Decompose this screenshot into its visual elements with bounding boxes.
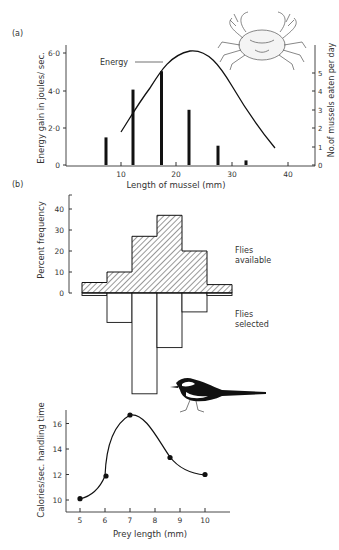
legend-available-line1: Flies: [235, 246, 253, 255]
svg-text:1: 1: [318, 144, 322, 152]
bar: [132, 293, 157, 394]
y-axis-left-label: Energy gain in joules/ sec.: [36, 52, 46, 164]
svg-text:0: 0: [55, 161, 60, 170]
bar: [105, 137, 108, 165]
svg-text:10: 10: [52, 496, 62, 505]
svg-text:10: 10: [54, 268, 64, 277]
figure: (a) 0 2·0 4·0 6·0 Energy gain in joules/…: [0, 0, 339, 550]
svg-text:5: 5: [78, 516, 83, 525]
svg-text:6·0: 6·0: [48, 49, 60, 58]
bar: [245, 160, 248, 165]
bar: [132, 90, 135, 165]
svg-text:5: 5: [318, 70, 322, 78]
bar: [182, 293, 207, 312]
chart-a: (a) 0 2·0 4·0 6·0 Energy gain in joules/…: [12, 12, 336, 190]
svg-text:30: 30: [54, 226, 64, 235]
chart-c: 10 12 14 16 5 6 7 8 9 10 Prey length (mm…: [36, 402, 230, 539]
y-right-ticks: 0 1 2 3 4 5: [312, 70, 323, 170]
chart-b: (b) 0 10 20 30 40 Percent frequency Flie…: [12, 180, 271, 412]
bar: [107, 293, 132, 322]
svg-text:9: 9: [178, 516, 183, 525]
data-point: [202, 472, 207, 477]
bars-mussels-eaten: [105, 71, 248, 165]
svg-text:30: 30: [227, 170, 237, 179]
y-axis-label: Percent frequency: [36, 201, 46, 278]
data-point: [77, 496, 82, 501]
bar: [217, 146, 220, 165]
svg-text:10: 10: [116, 170, 126, 179]
x-axis-label: Prey length (mm): [113, 529, 187, 539]
y-ticks: 10 12 14 16: [52, 420, 69, 506]
x-ticks: 10 20 30 40: [116, 162, 293, 179]
svg-text:4·0: 4·0: [48, 87, 60, 96]
panel-label-b: (b): [12, 180, 23, 189]
svg-text:2: 2: [318, 125, 322, 133]
histogram-flies-available: [82, 215, 232, 293]
bar: [160, 71, 163, 165]
legend-available-line2: available: [235, 256, 271, 265]
crab-illustration: [218, 12, 306, 70]
x-axis-label: Length of mussel (mm): [127, 180, 226, 190]
x-ticks: 5 6 7 8 9 10: [78, 508, 210, 525]
legend-selected-line2: selected: [235, 320, 269, 329]
bar: [188, 110, 191, 165]
svg-text:20: 20: [171, 170, 181, 179]
svg-text:3: 3: [318, 107, 322, 115]
svg-text:0: 0: [318, 162, 322, 170]
calorie-curve: [80, 415, 205, 499]
svg-text:14: 14: [52, 445, 62, 454]
svg-text:40: 40: [54, 205, 64, 214]
svg-text:40: 40: [283, 170, 293, 179]
data-point: [127, 412, 132, 417]
svg-text:4: 4: [318, 88, 323, 96]
svg-text:10: 10: [200, 516, 210, 525]
panel-label-a: (a): [12, 29, 23, 38]
energy-annotation: Energy: [100, 58, 128, 67]
data-point: [103, 473, 108, 478]
legend-selected-line1: Flies: [235, 310, 253, 319]
legend: Flies available Flies selected: [235, 246, 271, 329]
svg-text:2·0: 2·0: [48, 124, 60, 133]
y-left-ticks: 0 2·0 4·0 6·0: [48, 49, 66, 170]
svg-text:16: 16: [52, 420, 62, 429]
svg-text:8: 8: [153, 516, 158, 525]
svg-text:20: 20: [54, 247, 64, 256]
svg-text:0: 0: [59, 289, 64, 298]
svg-text:6: 6: [103, 516, 108, 525]
svg-text:12: 12: [52, 471, 62, 480]
data-points: [77, 412, 207, 501]
y-axis-right-label: No.of mussels eaten per day: [327, 42, 336, 157]
wagtail-illustration: [170, 378, 266, 412]
histogram-flies-selected: [82, 293, 232, 394]
y-axis-label: Calories/sec. handling time: [36, 402, 46, 518]
svg-text:7: 7: [128, 516, 133, 525]
energy-curve: [121, 51, 275, 148]
bar: [157, 293, 182, 348]
data-point: [167, 455, 172, 460]
